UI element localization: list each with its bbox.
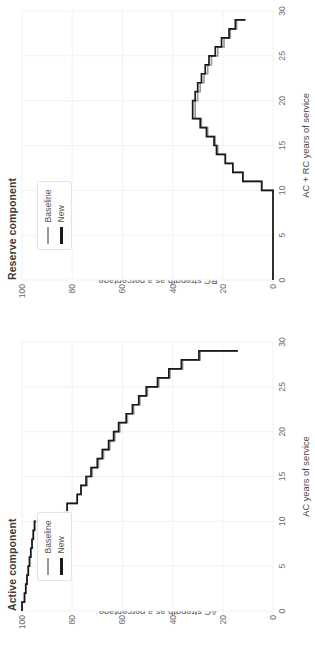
legend-reserve: Baseline New: [37, 181, 72, 250]
plot-area-active: 020406080100 051015202530 Baseline New: [22, 342, 273, 611]
legend-key-new-icon: [60, 558, 63, 575]
series-new-reserve: [193, 20, 273, 280]
legend-key-new-icon: [60, 227, 63, 244]
legend-item-new: New: [56, 520, 66, 575]
x-tick-label: 10: [277, 517, 287, 527]
y-tick-label: 20: [218, 284, 228, 294]
legend-key-baseline-icon: [47, 558, 49, 575]
x-tick-label: 20: [277, 427, 287, 437]
y-tick-label: 100: [17, 284, 27, 298]
legend-label-baseline: Baseline: [43, 189, 53, 222]
y-tick-label: 60: [117, 284, 127, 294]
legend-label-baseline: Baseline: [43, 520, 53, 553]
y-tick-label: 80: [67, 284, 77, 294]
series-baseline-reserve: [195, 20, 273, 280]
y-tick-label: 100: [17, 615, 27, 629]
legend-key-baseline-icon: [47, 227, 49, 244]
legend-active: Baseline New: [37, 512, 72, 581]
legend-item-new: New: [56, 189, 66, 244]
x-tick-label: 25: [277, 51, 287, 61]
y-tick-label: 20: [218, 615, 228, 625]
legend-label-new: New: [56, 205, 66, 222]
x-tick-label: 15: [277, 472, 287, 482]
x-axis-label-reserve: AC + RC years of service: [301, 11, 311, 280]
x-tick-label: 0: [277, 609, 287, 614]
x-tick-label: 0: [277, 278, 287, 283]
x-tick-label: 30: [277, 6, 287, 16]
panel-title-active: Active component: [6, 518, 18, 611]
panel-title-reserve: Reserve component: [6, 178, 18, 280]
panel-reserve-component: Reserve component RC strength as a perce…: [0, 1, 315, 332]
x-tick-label: 5: [277, 564, 287, 569]
y-tick-label: 0: [268, 284, 278, 289]
x-tick-label: 10: [277, 186, 287, 196]
x-tick-label: 30: [277, 337, 287, 347]
legend-label-new: New: [56, 536, 66, 553]
y-tick-label: 80: [67, 615, 77, 625]
x-tick-label: 15: [277, 141, 287, 151]
figure-rotator: Active component AC strength as a percen…: [0, 0, 315, 663]
y-tick-label: 60: [117, 615, 127, 625]
panel-active-component: Active component AC strength as a percen…: [0, 332, 315, 663]
x-tick-label: 20: [277, 96, 287, 106]
two-panel-figure: Active component AC strength as a percen…: [0, 0, 315, 663]
y-tick-label: 0: [268, 615, 278, 620]
legend-item-baseline: Baseline: [43, 189, 53, 244]
x-tick-label: 5: [277, 233, 287, 238]
x-axis-label-active: AC years of service: [301, 342, 311, 611]
y-tick-label: 40: [168, 284, 178, 294]
y-tick-label: 40: [168, 615, 178, 625]
legend-item-baseline: Baseline: [43, 520, 53, 575]
x-tick-label: 25: [277, 382, 287, 392]
plot-area-reserve: 020406080100 051015202530 Baseline New: [22, 11, 273, 280]
